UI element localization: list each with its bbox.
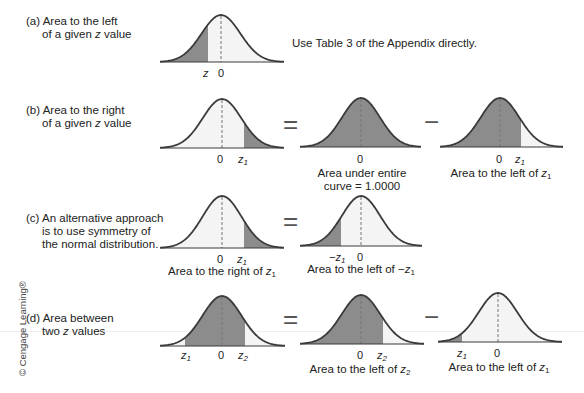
tick-zero: 0 <box>357 251 363 263</box>
row-b-prefix: (b) <box>26 104 40 116</box>
curve-c-right-of-z1 <box>160 196 284 248</box>
row-a-prefix: (a) <box>26 15 40 27</box>
tick-zero: 0 <box>496 153 502 165</box>
row-d-prefix: (d) <box>26 312 40 324</box>
tick-z1: z1 <box>238 153 248 167</box>
tick-zero: 0 <box>218 349 224 361</box>
curve-d-left-of-z2 <box>300 295 424 344</box>
tick-z: z <box>203 67 209 79</box>
row-c-caption-left: Area to the right of z1 <box>160 265 284 281</box>
equals-operator: = <box>283 211 298 231</box>
curve-b-left-of-z1 <box>440 98 563 147</box>
tick-zero: 0 <box>494 347 500 359</box>
row-a-line2: of a given z value <box>26 28 132 41</box>
minus-operator: − <box>424 307 439 327</box>
tick-zero: 0 <box>217 153 223 165</box>
shaded-area <box>185 296 245 346</box>
shaded-area <box>300 295 383 344</box>
row-c-caption-right: Area to the left of −z1 <box>306 263 416 279</box>
row-d-caption-right: Area to the left of z1 <box>444 361 554 377</box>
shaded-area <box>440 98 521 147</box>
shaded-area <box>160 24 208 62</box>
row-d-caption-middle: Area to the left of z2 <box>304 363 416 379</box>
row-b-label: (b) Area to the right of a given z value <box>26 104 132 130</box>
tick-zero: 0 <box>217 253 223 265</box>
row-d-line1: Area between <box>43 312 114 324</box>
curve-d-left-of-z1 <box>438 293 562 342</box>
row-c-prefix: (c) <box>26 212 39 224</box>
row-a-line1: Area to the left <box>43 15 118 27</box>
curve-b-right-area <box>160 99 284 148</box>
row-c-line3: the normal distribution. <box>26 238 163 251</box>
curve-d-between <box>160 296 285 346</box>
curve-c-left-of-neg-z1 <box>300 196 422 246</box>
curve-a-left-area <box>160 15 284 62</box>
row-b-caption-middle: Area under entire curve = 1.0000 <box>310 167 414 193</box>
row-b-line2: of a given z value <box>26 117 132 130</box>
tick-zero: 0 <box>357 349 363 361</box>
tick-zero: 0 <box>357 153 363 165</box>
row-b-caption-right: Area to the left of z1 <box>446 167 556 183</box>
row-a-label: (a) Area to the left of a given z value <box>26 15 132 41</box>
row-b-line1: Area to the right <box>43 104 125 116</box>
curve-b-entire-area <box>300 98 421 147</box>
minus-operator: − <box>424 112 439 132</box>
row-c-line1: An alternative approach <box>42 212 163 224</box>
tick-z1: z1 <box>181 349 191 363</box>
tick-zero: 0 <box>218 67 224 79</box>
row-a-note: Use Table 3 of the Appendix directly. <box>292 37 477 49</box>
row-c-line2: is to use symmetry of <box>26 225 163 238</box>
tick-z2: z2 <box>377 349 387 363</box>
equals-operator: = <box>283 114 298 134</box>
equals-operator: = <box>283 309 298 329</box>
tick-z2: z2 <box>238 349 248 363</box>
tick-z1: z1 <box>515 153 525 167</box>
row-d-label: (d) Area between two z values <box>26 312 114 338</box>
tick-z1: z1 <box>457 347 467 361</box>
row-d-line2: two z values <box>26 325 114 338</box>
row-c-label: (c) An alternative approach is to use sy… <box>26 212 163 251</box>
